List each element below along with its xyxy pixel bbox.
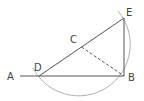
label-a: A [7,71,14,82]
label-e: E [126,7,132,18]
geometry-diagram: A D C B E [0,0,144,101]
segment-cb-dashed [82,47,125,76]
label-c: C [70,34,77,45]
label-b: B [128,72,135,83]
label-d: D [34,62,42,73]
